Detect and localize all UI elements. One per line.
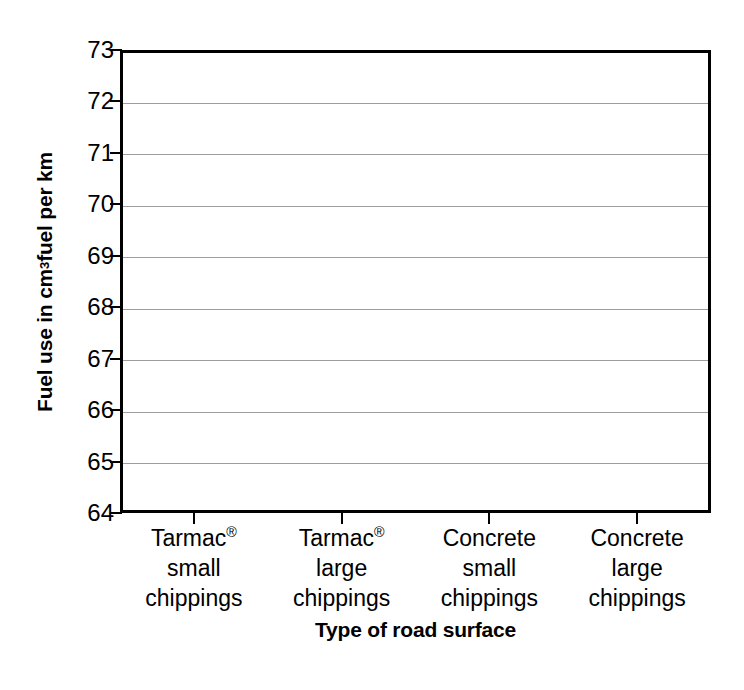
x-axis-tick-mark xyxy=(341,513,343,524)
x-axis-category-label-line: small xyxy=(120,554,268,584)
y-axis-tick-label: 70 xyxy=(62,192,114,216)
x-axis-category-label-line: Concrete xyxy=(416,524,564,554)
gridline xyxy=(123,206,708,207)
x-axis-category-label-line: chippings xyxy=(268,584,416,614)
x-axis-category-label-line: large xyxy=(268,554,416,584)
plot-area xyxy=(120,50,711,513)
gridline xyxy=(123,103,708,104)
x-axis-category-label-line: Tarmac® xyxy=(268,524,416,554)
y-axis-tick-label: 69 xyxy=(62,244,114,268)
y-axis-title-after: fuel per km xyxy=(33,152,57,262)
y-axis-title-before: Fuel use in cm xyxy=(33,269,57,412)
gridline xyxy=(123,257,708,258)
y-axis-tick-label: 72 xyxy=(62,89,114,113)
chart-figure: Fuel use in cm3 fuel per km 646566676869… xyxy=(0,0,744,690)
x-axis-tick-mark xyxy=(488,513,490,524)
x-axis-tick-mark xyxy=(193,513,195,524)
y-axis-tick-label: 68 xyxy=(62,295,114,319)
registered-trademark-icon: ® xyxy=(226,524,237,540)
y-axis-tick-label: 64 xyxy=(62,501,114,525)
y-axis-tick-label: 67 xyxy=(62,347,114,371)
x-axis-title: Type of road surface xyxy=(120,618,711,642)
x-axis-category-label: Tarmac®largechippings xyxy=(268,524,416,614)
y-axis-tick-label: 65 xyxy=(62,450,114,474)
x-axis-category-label: Concretelargechippings xyxy=(563,524,711,614)
registered-trademark-icon: ® xyxy=(374,524,385,540)
x-axis-category-label-line: chippings xyxy=(120,584,268,614)
y-axis-tick-label: 71 xyxy=(62,141,114,165)
y-axis-tick-label: 66 xyxy=(62,398,114,422)
x-axis-tick-mark xyxy=(636,513,638,524)
x-axis-tick-labels: Tarmac®smallchippingsTarmac®largechippin… xyxy=(120,524,711,614)
x-axis-category-label-line: Concrete xyxy=(563,524,711,554)
x-axis-category-label-line: Tarmac® xyxy=(120,524,268,554)
y-axis-title: Fuel use in cm3 fuel per km xyxy=(30,50,60,514)
gridline xyxy=(123,154,708,155)
gridline xyxy=(123,463,708,464)
gridline xyxy=(123,360,708,361)
x-axis-category-label-line: small xyxy=(416,554,564,584)
y-axis-tick-label: 73 xyxy=(62,38,114,62)
x-axis-category-label: Tarmac®smallchippings xyxy=(120,524,268,614)
gridline xyxy=(123,309,708,310)
x-axis-category-label-line: large xyxy=(563,554,711,584)
x-axis-category-label-line: chippings xyxy=(563,584,711,614)
gridline xyxy=(123,412,708,413)
x-axis-category-label-line: chippings xyxy=(416,584,564,614)
y-axis-tick-labels: 64656667686970717273 xyxy=(62,50,114,513)
x-axis-category-label: Concretesmallchippings xyxy=(416,524,564,614)
